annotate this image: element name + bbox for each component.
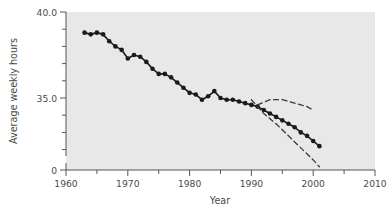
data-point-marker [88, 32, 93, 37]
data-point-marker [243, 101, 248, 106]
y-tick-label-top: 40.0 [37, 7, 58, 18]
data-point-marker [138, 54, 143, 59]
x-tick-label-5: 2010 [363, 178, 387, 189]
data-point-marker [218, 96, 223, 101]
data-point-marker [311, 139, 316, 144]
data-point-marker [231, 97, 236, 102]
x-tick-label-0: 1960 [54, 178, 78, 189]
data-point-marker [292, 125, 297, 130]
data-point-marker [268, 111, 273, 116]
data-point-marker [101, 32, 106, 37]
data-point-marker [181, 85, 186, 90]
data-point-marker [156, 72, 161, 77]
data-point-marker [317, 144, 322, 149]
data-point-marker [286, 122, 291, 127]
data-point-marker [280, 118, 285, 123]
data-point-marker [82, 30, 87, 35]
data-point-marker [119, 48, 124, 53]
data-point-marker [126, 56, 131, 61]
data-point-marker [249, 103, 254, 108]
x-tick-label-1: 1970 [116, 178, 140, 189]
data-point-marker [224, 97, 229, 102]
data-point-marker [113, 44, 118, 49]
x-tick-label-3: 1990 [240, 178, 264, 189]
data-point-marker [274, 115, 279, 120]
data-point-marker [150, 66, 155, 71]
data-point-marker [237, 99, 242, 104]
data-point-marker [187, 91, 192, 96]
data-point-marker [132, 53, 137, 58]
data-point-marker [175, 80, 180, 85]
line-chart: 40.0 35.0 0 Average weekly hours 1960 19… [0, 0, 388, 216]
data-point-marker [200, 97, 205, 102]
chart-figure: 40.0 35.0 0 Average weekly hours 1960 19… [0, 0, 388, 216]
x-axis-title: Year [209, 195, 230, 206]
data-point-marker [95, 30, 100, 35]
y-axis-title: Average weekly hours [8, 38, 19, 144]
data-point-marker [169, 75, 174, 80]
data-point-marker [299, 130, 304, 135]
y-tick-label-zero: 0 [51, 165, 57, 176]
x-tick-label-4: 2000 [302, 178, 326, 189]
data-point-marker [193, 92, 198, 97]
data-point-marker [206, 94, 211, 99]
x-tick-label-2: 1980 [178, 178, 202, 189]
data-point-marker [212, 89, 217, 94]
data-point-marker [144, 60, 149, 65]
data-point-marker [163, 72, 168, 77]
y-tick-label-mid: 35.0 [37, 93, 58, 104]
data-point-marker [261, 108, 266, 113]
plot-area-background [66, 12, 375, 170]
data-point-marker [305, 134, 310, 139]
data-point-marker [107, 39, 112, 44]
